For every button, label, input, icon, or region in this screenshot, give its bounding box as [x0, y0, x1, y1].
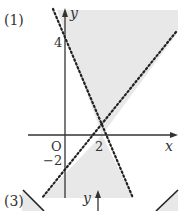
upper-shaded-region: [57, 10, 178, 135]
y-axis-label: y: [69, 5, 79, 21]
panel-label-1: (1): [4, 12, 24, 28]
x-tick-2: 2: [95, 139, 103, 154]
y-tick-4: 4: [54, 35, 62, 50]
figure: (1) y 4 O 2 x −2 (3) y: [0, 0, 181, 211]
origin-label: O: [51, 139, 62, 154]
panel-label-3: (3): [4, 193, 24, 209]
x-axis-label: x: [165, 138, 173, 154]
y-tick-neg2: −2: [43, 153, 62, 168]
panel3-y-axis-label: y: [82, 190, 92, 206]
